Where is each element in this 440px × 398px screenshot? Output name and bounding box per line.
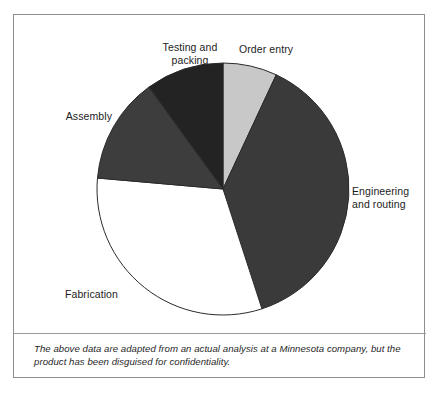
caption-divider	[14, 333, 426, 334]
page-footer-text	[13, 386, 425, 396]
pie-label-assembly: Assembly	[36, 110, 112, 123]
pie-label-order-entry: Order entry	[218, 43, 314, 56]
figure-frame: Testing and packing Order entry Engineer…	[13, 14, 425, 378]
pie-label-fabrication: Fabrication	[32, 288, 118, 301]
pie-label-engineering-and-routing: Engineering and routing	[352, 185, 436, 210]
figure-caption: The above data are adapted from an actua…	[34, 342, 408, 369]
pie-slice-group	[97, 63, 349, 315]
pie-chart: Testing and packing Order entry Engineer…	[14, 15, 426, 333]
